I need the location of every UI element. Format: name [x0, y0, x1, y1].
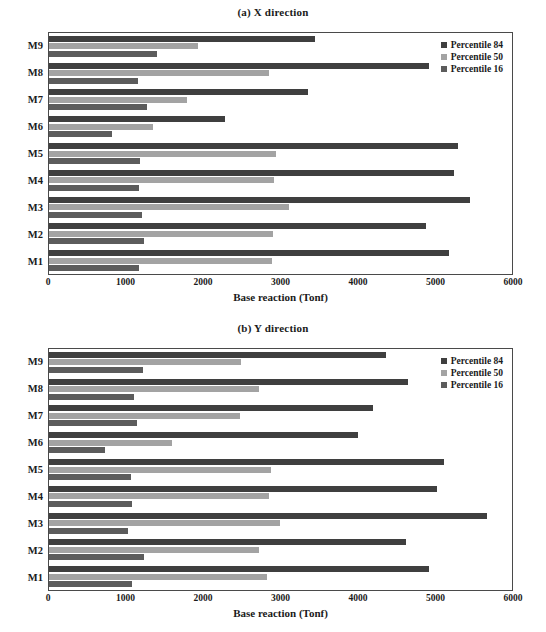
bar	[49, 78, 138, 84]
bar	[49, 185, 139, 191]
bar	[49, 151, 276, 157]
x-tick-label: 4000	[348, 593, 367, 603]
bar-group	[49, 247, 512, 274]
bar	[49, 386, 259, 392]
bar-group	[49, 456, 512, 483]
bar-group	[49, 563, 512, 590]
bar	[49, 359, 241, 365]
y-tick-label: M5	[14, 456, 46, 483]
y-tick-label: M2	[14, 221, 46, 248]
bar-group	[49, 483, 512, 510]
bar	[49, 574, 267, 580]
bar	[49, 513, 487, 519]
bar-group	[49, 429, 512, 456]
legend-item: Percentile 84	[441, 40, 503, 50]
x-tick-label: 0	[46, 593, 51, 603]
bar	[49, 231, 273, 237]
y-tick-label: M5	[14, 140, 46, 167]
x-tick-label: 3000	[271, 593, 290, 603]
bar	[49, 447, 105, 453]
bar	[49, 104, 147, 110]
bar	[49, 493, 269, 499]
legend-item: Percentile 84	[441, 356, 503, 366]
bar	[49, 405, 373, 411]
bar	[49, 70, 269, 76]
y-tick-label: M1	[14, 248, 46, 275]
x-axis-ticks-b: 0100020003000400050006000	[48, 593, 513, 607]
bar	[49, 528, 128, 534]
bar	[49, 352, 386, 358]
y-tick-label: M7	[14, 402, 46, 429]
bar-group	[49, 194, 512, 221]
bar	[49, 413, 240, 419]
legend-swatch-icon	[441, 42, 447, 48]
bar	[49, 581, 132, 587]
bar	[49, 554, 144, 560]
bar	[49, 223, 426, 229]
y-tick-label: M9	[14, 348, 46, 375]
y-tick-label: M2	[14, 537, 46, 564]
bar	[49, 474, 131, 480]
x-tick-label: 2000	[193, 277, 212, 287]
bar	[49, 197, 470, 203]
legend-label: Percentile 50	[451, 368, 503, 378]
bar	[49, 116, 225, 122]
bar	[49, 432, 358, 438]
x-axis-title-a: Base reaction (Tonf)	[48, 291, 513, 303]
x-tick-label: 6000	[504, 593, 523, 603]
y-tick-label: M1	[14, 564, 46, 591]
y-tick-label: M6	[14, 429, 46, 456]
legend-label: Percentile 84	[451, 356, 503, 366]
bar	[49, 265, 139, 271]
y-tick-label: M8	[14, 375, 46, 402]
y-tick-label: M4	[14, 483, 46, 510]
bar-group	[49, 220, 512, 247]
bar	[49, 36, 315, 42]
legend-item: Percentile 50	[441, 368, 503, 378]
y-tick-label: M9	[14, 32, 46, 59]
bar	[49, 143, 458, 149]
figure-sheet: (a) X direction M9 M8 M7 M6 M5 M4 M3 M2 …	[0, 0, 546, 632]
bar	[49, 566, 429, 572]
bar	[49, 367, 143, 373]
bar	[49, 420, 137, 426]
x-tick-label: 3000	[271, 277, 290, 287]
bar	[49, 238, 144, 244]
bar	[49, 204, 289, 210]
bar	[49, 43, 198, 49]
legend-swatch-icon	[441, 54, 447, 60]
bar	[49, 520, 280, 526]
legend-item: Percentile 16	[441, 64, 503, 74]
bar	[49, 394, 134, 400]
bar-group	[49, 510, 512, 537]
legend-label: Percentile 16	[451, 380, 503, 390]
bar-group	[49, 113, 512, 140]
legend-swatch-icon	[441, 382, 447, 388]
bar	[49, 250, 449, 256]
legend-a: Percentile 84 Percentile 50 Percentile 1…	[437, 37, 508, 77]
bar	[49, 459, 444, 465]
x-axis-title-b: Base reaction (Tonf)	[48, 607, 513, 619]
y-axis-labels-b: M9 M8 M7 M6 M5 M4 M3 M2 M1	[14, 348, 46, 591]
bar	[49, 158, 140, 164]
legend-item: Percentile 50	[441, 52, 503, 62]
y-tick-label: M3	[14, 194, 46, 221]
legend-swatch-icon	[441, 370, 447, 376]
panel-a-title: (a) X direction	[0, 6, 546, 18]
legend-label: Percentile 16	[451, 64, 503, 74]
y-tick-label: M3	[14, 510, 46, 537]
bar	[49, 486, 437, 492]
x-tick-label: 0	[46, 277, 51, 287]
bar	[49, 51, 157, 57]
y-tick-label: M6	[14, 113, 46, 140]
y-axis-labels-a: M9 M8 M7 M6 M5 M4 M3 M2 M1	[14, 32, 46, 275]
legend-swatch-icon	[441, 358, 447, 364]
panel-b-title: (b) Y direction	[0, 322, 546, 334]
panel-y-direction: (b) Y direction M9 M8 M7 M6 M5 M4 M3 M2 …	[0, 316, 546, 632]
x-tick-label: 5000	[426, 593, 445, 603]
x-tick-label: 5000	[426, 277, 445, 287]
plot-area-a: Percentile 84 Percentile 50 Percentile 1…	[48, 32, 513, 275]
bar-group	[49, 536, 512, 563]
x-axis-ticks-a: 0100020003000400050006000	[48, 277, 513, 291]
legend-b: Percentile 84 Percentile 50 Percentile 1…	[437, 353, 508, 393]
